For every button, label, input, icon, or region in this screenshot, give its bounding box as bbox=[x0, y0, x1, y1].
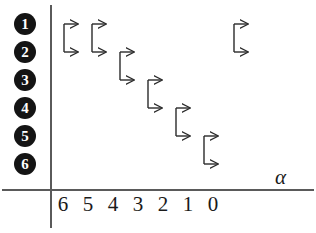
row-badge-5: 5 bbox=[14, 125, 36, 147]
arrow-alpha-2 bbox=[176, 108, 190, 136]
diagram-canvas: 123456 6543210 α bbox=[0, 0, 316, 233]
x-tick-3: 3 bbox=[128, 192, 148, 216]
arrow-alpha-3 bbox=[148, 80, 162, 108]
row-badge-1: 1 bbox=[14, 13, 36, 35]
x-tick-5: 5 bbox=[78, 192, 98, 216]
row-badge-2: 2 bbox=[14, 41, 36, 63]
row-badge-3: 3 bbox=[14, 69, 36, 91]
row-badge-6: 6 bbox=[14, 153, 36, 175]
arrow-alpha-5 bbox=[92, 24, 106, 52]
x-axis-label-alpha: α bbox=[275, 166, 286, 188]
arrow-alpha-1 bbox=[204, 136, 218, 164]
arrow-alpha-6 bbox=[64, 24, 78, 52]
arrow-alpha-4 bbox=[120, 52, 134, 80]
transition-arrows-group bbox=[64, 24, 248, 164]
x-tick-2: 2 bbox=[153, 192, 173, 216]
arrow-alpha-0 bbox=[234, 24, 248, 52]
x-tick-4: 4 bbox=[103, 192, 123, 216]
x-tick-0: 0 bbox=[203, 192, 223, 216]
x-tick-6: 6 bbox=[53, 192, 73, 216]
row-badge-4: 4 bbox=[14, 97, 36, 119]
x-tick-1: 1 bbox=[178, 192, 198, 216]
